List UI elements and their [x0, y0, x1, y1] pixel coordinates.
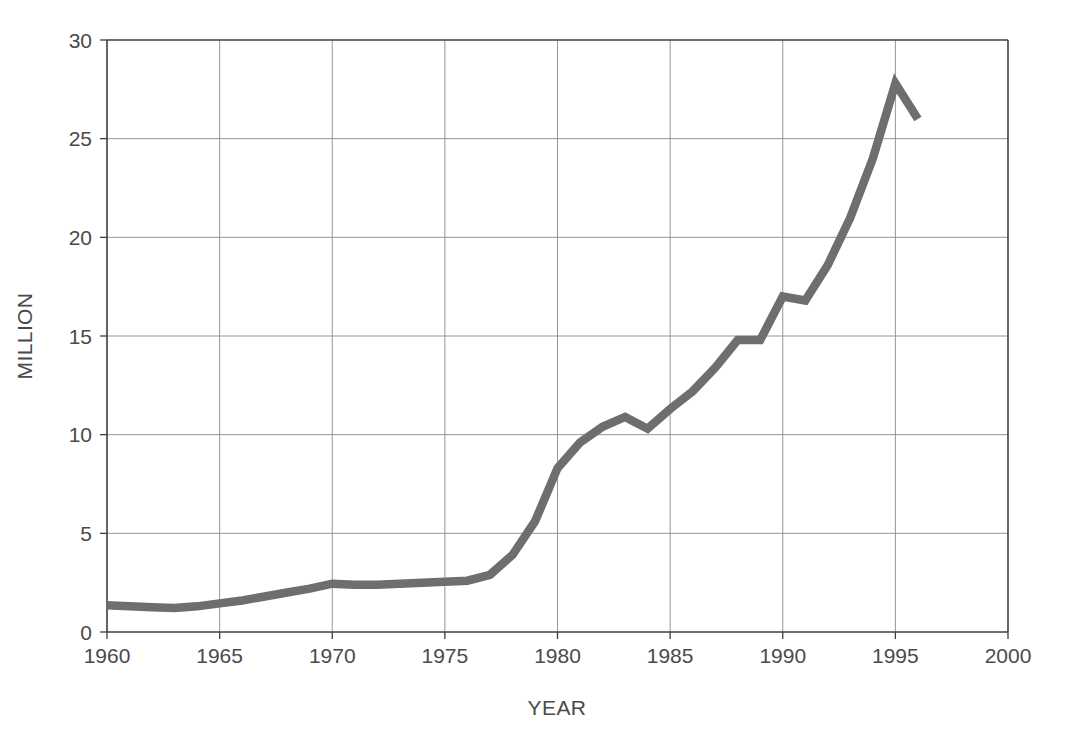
x-axis-title: YEAR: [528, 696, 587, 719]
line-chart: 302520151050 196019651970197519801985199…: [0, 0, 1066, 754]
y-tick-label: 5: [80, 522, 92, 545]
x-tick-label: 1965: [196, 644, 243, 667]
y-axis-title: MILLION: [13, 293, 36, 380]
y-tick-label: 30: [69, 29, 92, 52]
chart-background: [0, 0, 1066, 754]
y-tick-label: 20: [69, 226, 92, 249]
x-tick-label: 1970: [309, 644, 356, 667]
x-tick-label: 2000: [985, 644, 1032, 667]
x-tick-label: 1985: [647, 644, 694, 667]
chart-canvas: 302520151050 196019651970197519801985199…: [0, 0, 1066, 754]
y-tick-label: 15: [69, 325, 92, 348]
x-tick-label: 1995: [872, 644, 919, 667]
x-tick-label: 1975: [422, 644, 469, 667]
y-tick-label: 25: [69, 127, 92, 150]
x-tick-label: 1980: [534, 644, 581, 667]
y-tick-label: 0: [80, 621, 92, 644]
y-tick-label: 10: [69, 423, 92, 446]
x-tick-label: 1960: [84, 644, 131, 667]
x-tick-label: 1990: [759, 644, 806, 667]
